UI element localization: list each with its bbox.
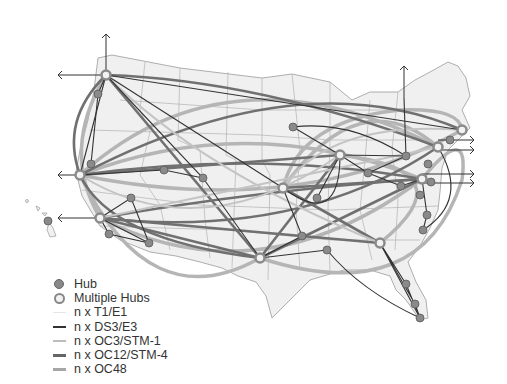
oc12-line-icon xyxy=(53,354,66,357)
oc3-line-icon xyxy=(53,340,66,342)
t1-line-icon xyxy=(53,312,66,313)
oc48-line-icon xyxy=(53,368,66,371)
legend-item-oc12: n x OC12/STM-4 xyxy=(52,348,168,362)
legend-item-t1: n x T1/E1 xyxy=(52,305,168,319)
multiple-hubs-icon xyxy=(54,293,65,304)
ds3-line-icon xyxy=(53,326,66,328)
legend-item-ds3: n x DS3/E3 xyxy=(52,320,168,334)
legend-item-multiple-hubs: Multiple Hubs xyxy=(52,291,168,305)
legend-item-oc48: n x OC48 xyxy=(52,362,168,376)
hub-icon xyxy=(54,279,64,289)
legend-item-oc3: n x OC3/STM-1 xyxy=(52,334,168,348)
legend: Hub Multiple Hubs n x T1/E1 n x DS3/E3 n… xyxy=(52,277,168,376)
legend-item-hub: Hub xyxy=(52,277,168,291)
